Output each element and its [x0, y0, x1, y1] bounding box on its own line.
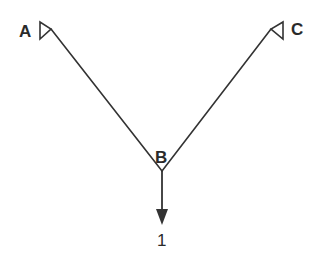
- pin-support-a-icon: [40, 22, 51, 39]
- load-arrow-down-icon: [156, 209, 168, 225]
- node-label-b: B: [155, 148, 167, 167]
- node-label-c: C: [291, 20, 303, 39]
- node-label-a: A: [19, 22, 31, 41]
- pin-support-c-icon: [271, 22, 283, 39]
- member-c-b: [162, 29, 271, 171]
- member-a-b: [51, 29, 162, 171]
- truss-diagram: A B C 1: [0, 0, 323, 259]
- load-label: 1: [157, 231, 166, 250]
